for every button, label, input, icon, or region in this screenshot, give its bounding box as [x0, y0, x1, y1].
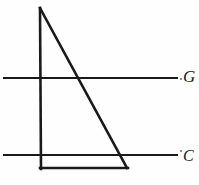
geometry-figure — [0, 0, 199, 185]
diagram-canvas: G C — [0, 0, 199, 185]
triangle-vertical-leg — [40, 8, 41, 169]
line-label-g: G — [183, 68, 195, 85]
line-label-c: C — [183, 148, 194, 164]
triangle-hypotenuse — [40, 8, 127, 168]
dot-marker-icon-g — [180, 78, 182, 80]
dot-marker-icon-c — [180, 150, 182, 152]
